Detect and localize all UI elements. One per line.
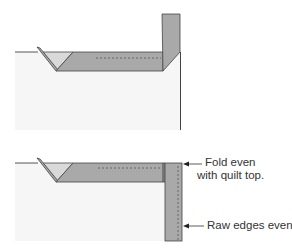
raw-edges-label: Raw edges even	[207, 219, 292, 232]
step-2-diagram	[15, 158, 204, 241]
binding-vertical-2	[165, 163, 182, 241]
arrow-raw-edges	[183, 224, 204, 229]
arrowhead-left-icon	[183, 162, 189, 167]
fold-label-line1: Fold even	[197, 156, 264, 169]
fold-label: Fold even with quilt top.	[197, 156, 264, 182]
arrowhead-left-icon	[183, 224, 189, 229]
step-1-diagram	[15, 14, 181, 130]
fold-label-line2: with quilt top.	[197, 169, 264, 182]
diagram-canvas	[0, 0, 292, 251]
binding-strip-2	[56, 163, 165, 182]
binding-strip-1	[56, 52, 163, 71]
